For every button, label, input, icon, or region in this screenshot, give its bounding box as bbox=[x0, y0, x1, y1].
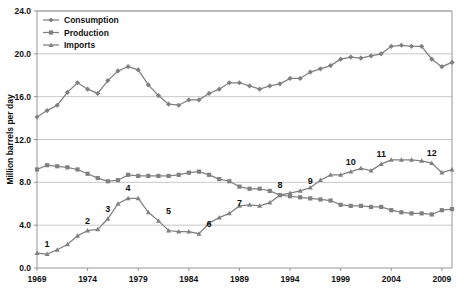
data-point-consumption bbox=[358, 56, 363, 61]
data-point-consumption bbox=[318, 66, 323, 71]
annotation-label-5: 5 bbox=[166, 206, 171, 216]
data-point-consumption bbox=[186, 97, 191, 102]
data-point-production bbox=[379, 205, 383, 209]
data-point-production bbox=[420, 211, 424, 215]
data-point-production bbox=[45, 163, 49, 167]
data-point-consumption bbox=[348, 54, 353, 59]
data-point-imports bbox=[358, 166, 363, 171]
data-point-production bbox=[409, 211, 413, 215]
series-line-production bbox=[37, 165, 452, 214]
data-point-consumption bbox=[126, 64, 131, 69]
x-axis-tick-label: 1969 bbox=[28, 274, 47, 284]
data-point-production bbox=[35, 167, 39, 171]
data-point-production bbox=[136, 174, 140, 178]
x-axis-tick-label: 1999 bbox=[331, 274, 350, 284]
legend-item-label: Consumption bbox=[64, 15, 119, 25]
data-point-production bbox=[106, 179, 110, 183]
line-chart: 0.04.08.012.016.020.024.0 19691974197919… bbox=[0, 0, 464, 293]
annotation-label-7: 7 bbox=[237, 198, 242, 208]
y-axis-tick-label: 4.0 bbox=[19, 220, 31, 230]
legend-item-label: Imports bbox=[64, 40, 95, 50]
x-axis-tick-label: 1994 bbox=[281, 274, 300, 284]
data-point-consumption bbox=[247, 83, 252, 88]
annotation-label-3: 3 bbox=[105, 204, 110, 214]
x-axis-tick-label: 1979 bbox=[129, 274, 148, 284]
data-point-consumption bbox=[176, 103, 181, 108]
data-point-production bbox=[65, 165, 69, 169]
data-point-production bbox=[187, 171, 191, 175]
y-axis-tick-label: 12.0 bbox=[14, 135, 31, 145]
data-point-production bbox=[268, 189, 272, 193]
data-point-consumption bbox=[277, 81, 282, 86]
data-point-consumption bbox=[237, 80, 242, 85]
annotation-label-10: 10 bbox=[346, 157, 356, 167]
y-axis-title-text: Million barrels per day bbox=[5, 94, 15, 184]
data-point-production bbox=[359, 204, 363, 208]
data-point-production bbox=[96, 176, 100, 180]
data-point-production bbox=[156, 174, 160, 178]
annotation-label-1: 1 bbox=[45, 239, 50, 249]
data-point-production bbox=[389, 208, 393, 212]
y-axis-tick-label: 24.0 bbox=[14, 6, 31, 16]
x-axis-tick-label: 1984 bbox=[179, 274, 198, 284]
y-axis-tick-label: 0.0 bbox=[19, 263, 31, 273]
data-point-consumption bbox=[257, 87, 262, 92]
data-point-production bbox=[126, 173, 130, 177]
data-point-production bbox=[339, 203, 343, 207]
data-point-production bbox=[177, 173, 181, 177]
data-point-consumption bbox=[267, 83, 272, 88]
y-axis-tick-label: 20.0 bbox=[14, 49, 31, 59]
data-point-production bbox=[207, 173, 211, 177]
annotations-group: 123456789101112 bbox=[45, 148, 437, 249]
data-point-production bbox=[318, 197, 322, 201]
legend-item-label: Production bbox=[64, 28, 109, 38]
y-axis-tick-label: 8.0 bbox=[19, 177, 31, 187]
data-point-production bbox=[450, 207, 454, 211]
x-axis-tick-label: 2004 bbox=[382, 274, 401, 284]
data-point-production bbox=[369, 205, 373, 209]
data-point-production bbox=[430, 212, 434, 216]
annotation-label-6: 6 bbox=[207, 219, 212, 229]
data-point-production bbox=[166, 174, 170, 178]
x-axis-tick-label: 2009 bbox=[432, 274, 451, 284]
data-point-production bbox=[258, 187, 262, 191]
data-point-production bbox=[349, 204, 353, 208]
annotation-label-11: 11 bbox=[376, 149, 386, 159]
data-point-production bbox=[440, 208, 444, 212]
data-point-production bbox=[217, 177, 221, 181]
annotation-label-8: 8 bbox=[277, 180, 282, 190]
data-point-consumption bbox=[399, 43, 404, 48]
data-point-production bbox=[197, 170, 201, 174]
data-point-production bbox=[86, 172, 90, 176]
data-point-production bbox=[75, 167, 79, 171]
data-point-production bbox=[146, 174, 150, 178]
legend-swatch-marker bbox=[49, 30, 53, 34]
chart-container: 0.04.08.012.016.020.024.0 19691974197919… bbox=[0, 0, 464, 293]
data-point-production bbox=[399, 210, 403, 214]
data-point-production bbox=[55, 164, 59, 168]
data-point-imports bbox=[450, 167, 455, 172]
data-point-production bbox=[227, 179, 231, 183]
data-point-production bbox=[298, 195, 302, 199]
annotation-label-4: 4 bbox=[126, 183, 131, 193]
annotation-label-12: 12 bbox=[427, 148, 437, 158]
data-point-production bbox=[116, 178, 120, 182]
y-axis-title: Million barrels per day bbox=[5, 94, 15, 184]
annotation-label-2: 2 bbox=[85, 216, 90, 226]
x-axis-tick-label: 1974 bbox=[78, 274, 97, 284]
legend-item-imports[interactable]: Imports bbox=[43, 40, 95, 50]
legend-item-consumption[interactable]: Consumption bbox=[43, 15, 119, 25]
series-imports bbox=[35, 157, 455, 256]
data-point-production bbox=[247, 187, 251, 191]
chart-legend: ConsumptionProductionImports bbox=[43, 15, 119, 50]
data-point-consumption bbox=[449, 60, 454, 65]
y-axis-tick-labels: 0.04.08.012.016.020.024.0 bbox=[14, 6, 37, 273]
data-point-consumption bbox=[409, 44, 414, 49]
data-point-consumption bbox=[287, 76, 292, 81]
data-point-production bbox=[328, 198, 332, 202]
data-point-production bbox=[308, 196, 312, 200]
legend-swatch-marker bbox=[48, 17, 53, 22]
series-line-consumption bbox=[37, 45, 452, 117]
series-line-imports bbox=[37, 160, 452, 254]
legend-item-production[interactable]: Production bbox=[43, 28, 109, 38]
